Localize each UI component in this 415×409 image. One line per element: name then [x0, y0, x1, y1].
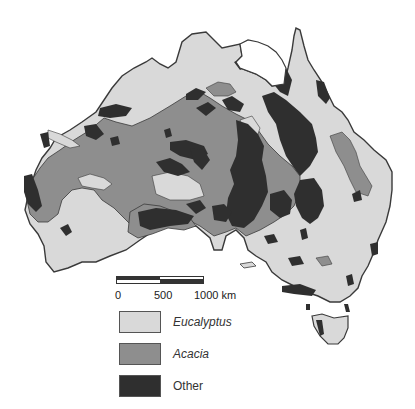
- scale-label-500: 500: [154, 289, 172, 301]
- scale-label-0: 0: [115, 289, 121, 301]
- legend: Eucalyptus Acacia Other: [119, 307, 232, 403]
- island-small-1: [306, 304, 310, 310]
- legend-item-acacia: Acacia: [119, 339, 232, 369]
- scale-labels: 0 500 1000 km: [112, 289, 272, 303]
- tasmania: [312, 314, 348, 344]
- legend-item-eucalyptus: Eucalyptus: [119, 307, 232, 337]
- legend-swatch-other: [119, 375, 161, 397]
- legend-item-other: Other: [119, 371, 232, 401]
- legend-swatch-eucalyptus: [119, 311, 161, 333]
- scale-label-1000: 1000 km: [194, 289, 236, 301]
- scale-bar-bottom: [116, 279, 204, 284]
- legend-label-eucalyptus: Eucalyptus: [173, 315, 232, 329]
- legend-label-other: Other: [173, 379, 203, 393]
- legend-label-acacia: Acacia: [173, 347, 209, 361]
- island-small-2: [344, 304, 350, 312]
- scale-bar: [116, 276, 204, 284]
- kangaroo-island: [240, 262, 256, 268]
- legend-swatch-acacia: [119, 343, 161, 365]
